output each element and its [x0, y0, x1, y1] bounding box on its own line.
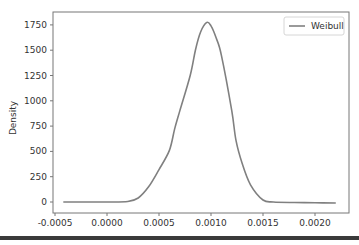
y-tick-label: 1750	[24, 20, 47, 30]
y-tick-label: 750	[30, 121, 47, 131]
x-tick-label: 0.0010	[195, 218, 227, 228]
x-tick-label: 0.0020	[299, 218, 331, 228]
y-tick-label: 0	[41, 197, 47, 207]
x-tick-label: -0.0005	[38, 218, 73, 228]
x-tick-label: 0.0015	[247, 218, 279, 228]
bottom-divider	[0, 236, 359, 240]
y-tick-label: 500	[30, 146, 47, 156]
y-tick-label: 1500	[24, 45, 47, 55]
axes-frame	[53, 12, 349, 213]
y-tick-label: 250	[30, 172, 47, 182]
x-axis-ticks: -0.00050.00000.00050.00100.00150.0020	[38, 213, 331, 228]
legend: Weibull	[284, 17, 344, 35]
y-tick-label: 1250	[24, 71, 47, 81]
y-tick-label: 1000	[24, 96, 47, 106]
y-axis-label: Density	[8, 100, 18, 135]
y-axis-ticks: 02505007501000125015001750	[24, 20, 53, 207]
x-tick-label: 0.0000	[91, 218, 123, 228]
density-chart: 02505007501000125015001750 -0.00050.0000…	[0, 0, 359, 245]
legend-label-weibull: Weibull	[311, 21, 344, 31]
x-tick-label: 0.0005	[143, 218, 175, 228]
